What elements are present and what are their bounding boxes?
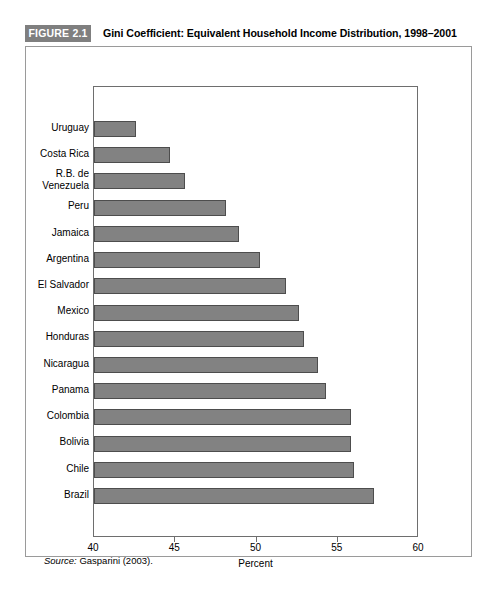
bar — [94, 278, 286, 294]
bar-row — [94, 147, 419, 163]
bar — [94, 200, 226, 216]
bar-row — [94, 121, 419, 137]
bar — [94, 331, 304, 347]
figure-body-panel: UruguayCosta RicaR.B. de VenezuelaPeruJa… — [25, 46, 472, 557]
category-label: Bolivia — [0, 436, 89, 448]
bar — [94, 121, 136, 137]
category-label: Peru — [0, 200, 89, 212]
bar-row — [94, 200, 419, 216]
bar — [94, 357, 318, 373]
bar-row — [94, 278, 419, 294]
bar-row — [94, 331, 419, 347]
category-label: Colombia — [0, 410, 89, 422]
category-label: Costa Rica — [0, 148, 89, 160]
x-tick-label: 55 — [331, 542, 342, 553]
source-label: Source: — [44, 555, 77, 566]
x-tick-label: 45 — [169, 542, 180, 553]
category-label: Honduras — [0, 331, 89, 343]
bar — [94, 226, 239, 242]
category-label: Jamaica — [0, 227, 89, 239]
bar-row — [94, 357, 419, 373]
category-label: Uruguay — [0, 122, 89, 134]
bar — [94, 409, 351, 425]
bar-row — [94, 173, 419, 189]
category-label: R.B. de Venezuela — [0, 168, 89, 191]
source-note: Source: Gasparini (2003). — [44, 555, 153, 566]
source-text: Gasparini (2003). — [79, 555, 152, 566]
category-label: Chile — [0, 463, 89, 475]
bars-layer — [94, 87, 417, 536]
bar-row — [94, 226, 419, 242]
figure-header: FIGURE 2.1 Gini Coefficient: Equivalent … — [25, 22, 472, 44]
bar-row — [94, 305, 419, 321]
x-tick-label: 40 — [87, 542, 98, 553]
figure-number-badge: FIGURE 2.1 — [25, 25, 91, 42]
bar-row — [94, 252, 419, 268]
bar — [94, 147, 170, 163]
category-label: Nicaragua — [0, 358, 89, 370]
x-tick-label: 60 — [412, 542, 423, 553]
bar-row — [94, 488, 419, 504]
bar — [94, 488, 374, 504]
bar — [94, 462, 354, 478]
category-label: Mexico — [0, 305, 89, 317]
category-label: Brazil — [0, 489, 89, 501]
figure-title: Gini Coefficient: Equivalent Household I… — [103, 27, 457, 39]
x-axis-title: Percent — [238, 558, 272, 569]
plot-frame — [93, 86, 418, 537]
figure-card: FIGURE 2.1 Gini Coefficient: Equivalent … — [25, 22, 472, 558]
bar — [94, 252, 260, 268]
bar-row — [94, 462, 419, 478]
bar — [94, 305, 299, 321]
x-tick-label: 50 — [250, 542, 261, 553]
bar — [94, 383, 326, 399]
bar-row — [94, 409, 419, 425]
bar-row — [94, 436, 419, 452]
bar-chart: UruguayCosta RicaR.B. de VenezuelaPeruJa… — [26, 47, 473, 558]
bar — [94, 173, 185, 189]
category-label: Panama — [0, 384, 89, 396]
bar-row — [94, 383, 419, 399]
category-label: Argentina — [0, 253, 89, 265]
category-label: El Salvador — [0, 279, 89, 291]
bar — [94, 436, 351, 452]
